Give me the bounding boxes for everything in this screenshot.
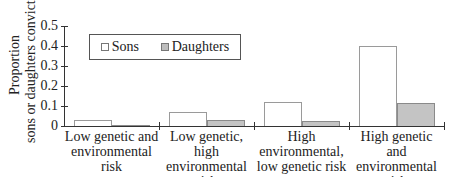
y-tick	[61, 66, 68, 67]
bar-daughters	[207, 120, 245, 126]
category-label: Low genetic andenvironmental risk	[64, 129, 159, 174]
daughters-swatch-icon	[161, 43, 169, 51]
legend-label-sons: Sons	[112, 39, 139, 55]
bar-sons	[74, 120, 112, 126]
y-tick-label: 0.4	[28, 39, 58, 53]
y-axis-label-line-1: Proportion	[7, 0, 23, 143]
y-tick	[61, 26, 68, 27]
legend-item-sons: Sons	[101, 39, 139, 55]
y-tick-label: 0.2	[28, 79, 58, 93]
category-label: Highenvironmental,low genetic risk	[254, 129, 349, 174]
legend: Sons Daughters	[89, 34, 241, 60]
bar-daughters	[302, 121, 340, 126]
y-tick	[61, 46, 68, 47]
bar-daughters	[112, 125, 150, 126]
y-axis	[64, 26, 65, 126]
y-tick	[61, 126, 68, 127]
y-tick	[61, 86, 68, 87]
bar-sons	[264, 102, 302, 126]
y-tick-label: 0.5	[28, 19, 58, 33]
y-tick-label: 0	[28, 119, 58, 133]
bar-sons	[359, 46, 397, 126]
legend-item-daughters: Daughters	[161, 39, 230, 55]
category-label: High genetic andenvironmental risk	[349, 129, 444, 177]
category-label: Low genetic,highenvironmental risk	[159, 129, 254, 177]
y-tick	[61, 106, 68, 107]
y-tick-label: 0.3	[28, 59, 58, 73]
y-tick-label: 0.1	[28, 99, 58, 113]
bar-sons	[169, 112, 207, 126]
x-tick	[444, 122, 445, 130]
legend-label-daughters: Daughters	[172, 39, 230, 55]
bar-daughters	[397, 103, 435, 126]
sons-swatch-icon	[101, 43, 109, 51]
bar-chart: Proportion sons or daughters convicted 0…	[0, 0, 460, 177]
